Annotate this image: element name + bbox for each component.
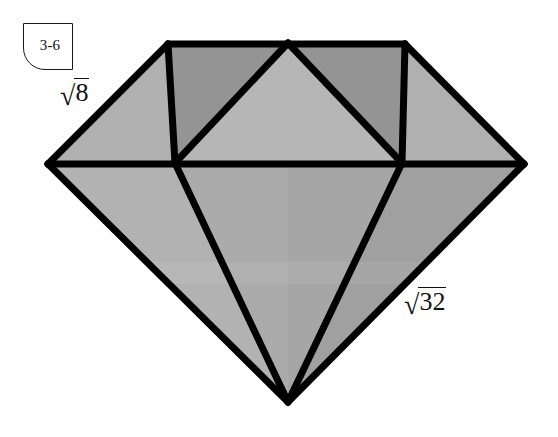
- diamond-illustration: [0, 0, 558, 437]
- radical-sqrt8: √8: [60, 78, 89, 110]
- radical-sqrt32: √32: [404, 287, 446, 319]
- radical-sign-icon: √: [60, 82, 75, 110]
- callout-number-label: 3-6: [36, 38, 61, 55]
- label-crown-edge-length: √8: [60, 78, 89, 110]
- diamond-figure: 3-6 √8 √32: [0, 0, 558, 437]
- radicand-value: 32: [418, 287, 446, 315]
- radicand-value: 8: [74, 78, 89, 106]
- callout-number-box: 3-6: [23, 23, 73, 70]
- edge-crown-right-vertical: [402, 44, 405, 163]
- radical-sign-icon: √: [404, 291, 419, 319]
- label-pavilion-edge-length: √32: [404, 287, 446, 319]
- scan-band-artifact: [0, 262, 558, 284]
